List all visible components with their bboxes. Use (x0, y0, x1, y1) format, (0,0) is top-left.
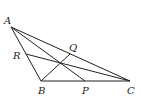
label-r: R (12, 50, 21, 61)
label-p: P (81, 85, 89, 96)
geometry-diagram: A R Q B P C (0, 0, 142, 97)
label-q: Q (69, 42, 77, 53)
label-b: B (37, 85, 45, 96)
label-c: C (127, 85, 135, 96)
label-a: A (3, 15, 11, 26)
cevian-ap (11, 27, 85, 81)
side-ac (11, 27, 130, 81)
cevian-cr (26, 54, 130, 81)
cevian-bq (41, 54, 70, 81)
